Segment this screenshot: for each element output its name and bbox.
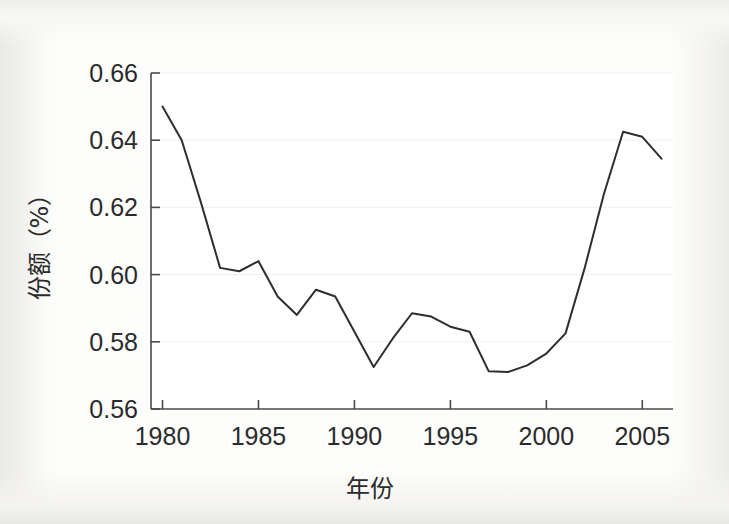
- y-tick-label: 0.66: [89, 59, 138, 87]
- plot-area: 0.560.580.600.620.640.66 198019851990199…: [0, 0, 729, 524]
- y-tick-label: 0.56: [89, 395, 138, 423]
- line-chart-svg: 0.560.580.600.620.640.66 198019851990199…: [0, 0, 729, 524]
- plot-background: [151, 73, 673, 409]
- x-tick-label: 1995: [423, 422, 479, 450]
- chart-page: 0.560.580.600.620.640.66 198019851990199…: [0, 0, 729, 524]
- x-tick-label: 1990: [327, 422, 383, 450]
- y-axis-tick-labels: 0.560.580.600.620.640.66: [89, 59, 138, 423]
- x-axis-title: 年份: [346, 475, 394, 503]
- x-axis-tick-labels: 198019851990199520002005: [135, 422, 670, 450]
- y-tick-label: 0.58: [89, 328, 138, 356]
- x-tick-label: 1980: [135, 422, 191, 450]
- x-tick-label: 2000: [519, 422, 575, 450]
- x-tick-label: 2005: [614, 422, 670, 450]
- y-tick-label: 0.64: [89, 126, 138, 154]
- y-axis-title: 份额（%）: [26, 182, 54, 301]
- y-tick-label: 0.60: [89, 261, 138, 289]
- x-tick-label: 1985: [231, 422, 287, 450]
- y-tick-label: 0.62: [89, 193, 138, 221]
